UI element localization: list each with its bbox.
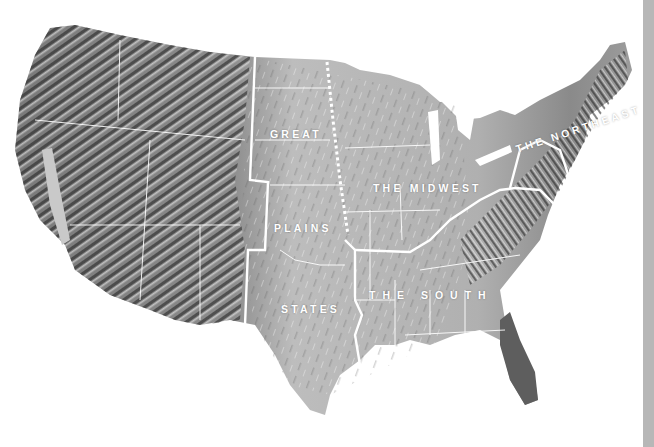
label-great: GREAT <box>270 128 322 140</box>
label-the-midwest: THE MIDWEST <box>373 182 482 194</box>
florida <box>500 312 538 405</box>
right-edge-strip <box>643 0 654 447</box>
label-plains: PLAINS <box>274 222 332 234</box>
map-page: GREAT PLAINS STATES THE MIDWEST THE NORT… <box>0 0 654 447</box>
label-the-south: THE SOUTH <box>369 289 493 301</box>
label-states: STATES <box>281 303 340 315</box>
